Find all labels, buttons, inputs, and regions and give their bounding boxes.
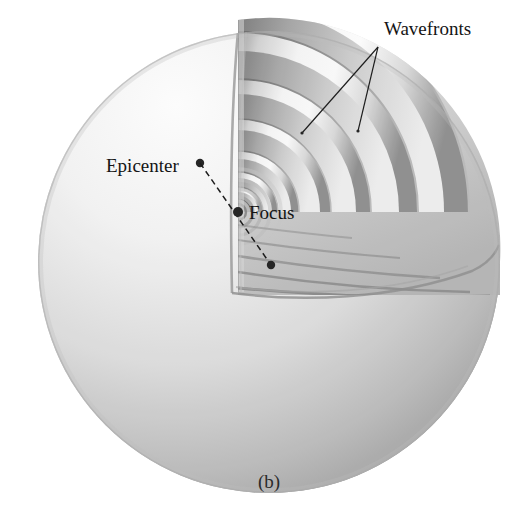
wavefronts-label: Wavefronts	[384, 18, 471, 39]
earthquake-wavefront-figure: Wavefronts Epicenter Focus (b)	[0, 0, 523, 514]
epicenter-label: Epicenter	[106, 155, 179, 176]
wavefronts-leader-tip-2	[356, 129, 359, 132]
figure-canvas: Wavefronts Epicenter Focus (b)	[0, 0, 523, 514]
radius-endpoint-dot	[267, 261, 275, 269]
figure-caption: (b)	[258, 471, 280, 493]
wavefronts-leader-tip-1	[300, 131, 303, 134]
focus-marker-dot	[233, 207, 243, 217]
focus-label: Focus	[249, 202, 294, 223]
